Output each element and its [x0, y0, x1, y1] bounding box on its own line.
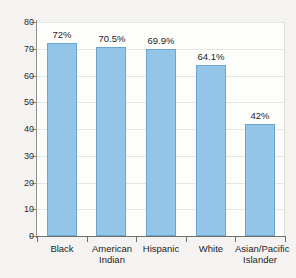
x-axis-category-label: Hispanic [136, 243, 186, 254]
bar-value-label: 72% [37, 30, 87, 40]
y-axis-tick-label: 10 [8, 205, 34, 214]
y-axis-tick-label: 20 [8, 179, 34, 188]
y-axis-tick-label: 60 [8, 72, 34, 81]
y-axis-spine [36, 20, 37, 238]
x-axis-tick-mark [37, 237, 38, 242]
x-axis-tick-mark [136, 237, 137, 242]
x-axis-tick-mark [186, 237, 187, 242]
gridline [37, 22, 285, 23]
x-axis-tick-mark [87, 237, 88, 242]
bar-value-label: 64.1% [186, 52, 236, 62]
bar [47, 43, 77, 236]
x-axis-category-label: Black [37, 243, 87, 254]
bar-value-label: 70.5% [87, 34, 137, 44]
y-axis-tick-label: 70 [8, 45, 34, 54]
y-axis-tick-label: 30 [8, 152, 34, 161]
bar [196, 65, 226, 236]
x-axis-spine [30, 236, 286, 237]
bar [96, 47, 126, 236]
bar [245, 124, 275, 236]
bar-value-label: 42% [235, 111, 285, 121]
x-axis-category-label: American Indian [87, 243, 137, 265]
y-axis-tick-label: 80 [8, 18, 34, 27]
x-axis-tick-mark [285, 237, 286, 242]
x-axis-tick-mark [235, 237, 236, 242]
x-axis-category-label: White [186, 243, 236, 254]
bar-value-label: 69.9% [136, 36, 186, 46]
y-axis-tick-label: 0 [8, 232, 34, 241]
bar [146, 49, 176, 236]
bar-chart-figure: 72%70.5%69.9%64.1%42% 01020304050607080 … [0, 0, 296, 278]
y-axis-tick-label: 40 [8, 125, 34, 134]
x-axis-category-label: Asian/Pacific Islander [235, 243, 285, 265]
y-axis-tick-label: 50 [8, 98, 34, 107]
